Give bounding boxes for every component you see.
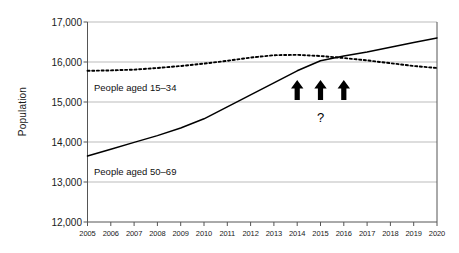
x-tick-label: 2011 xyxy=(219,229,235,238)
up-arrow-icon xyxy=(338,80,350,100)
data-series xyxy=(88,38,438,156)
x-tick-label: 2007 xyxy=(126,229,142,238)
series-line xyxy=(88,55,438,71)
x-tick-label: 2006 xyxy=(103,229,119,238)
y-tick-label: 15,000 xyxy=(12,97,82,108)
x-tick-label: 2016 xyxy=(336,229,352,238)
x-tick-label: 2010 xyxy=(196,229,212,238)
x-tick-label: 2019 xyxy=(406,229,422,238)
series-label-15-34: People aged 15–34 xyxy=(94,82,176,93)
up-arrow-icon xyxy=(291,80,303,100)
y-tick-label: 12,000 xyxy=(12,217,82,228)
gridlines xyxy=(88,22,438,182)
y-tick-label: 13,000 xyxy=(12,177,82,188)
x-tick-label: 2014 xyxy=(289,229,305,238)
population-line-chart: Population 12,00013,00014,00015,00016,00… xyxy=(0,0,459,253)
y-tick-label: 16,000 xyxy=(12,57,82,68)
x-tick-label: 2018 xyxy=(382,229,398,238)
x-tick-label: 2005 xyxy=(79,229,95,238)
x-tick-label: 2012 xyxy=(242,229,258,238)
x-tick-label: 2013 xyxy=(266,229,282,238)
y-tick-marks xyxy=(84,22,88,222)
y-tick-label: 14,000 xyxy=(12,137,82,148)
y-axis-tick-labels: 12,00013,00014,00015,00016,00017,000 xyxy=(10,0,82,253)
up-arrow-icon xyxy=(314,80,326,100)
x-tick-marks xyxy=(88,222,438,226)
x-tick-label: 2017 xyxy=(359,229,375,238)
series-label-50-69: People aged 50–69 xyxy=(94,166,176,177)
x-tick-label: 2009 xyxy=(173,229,189,238)
annotation-arrows xyxy=(291,80,350,100)
axis-lines xyxy=(88,22,438,222)
y-tick-label: 17,000 xyxy=(12,17,82,28)
x-tick-label: 2020 xyxy=(429,229,445,238)
question-mark-annotation: ? xyxy=(317,111,324,124)
x-tick-label: 2015 xyxy=(312,229,328,238)
x-tick-label: 2008 xyxy=(149,229,165,238)
